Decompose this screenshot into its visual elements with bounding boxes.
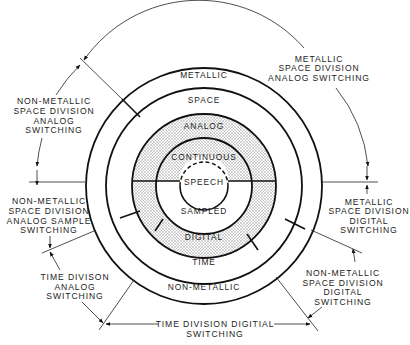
- callout-time-division-analog: TIME DIVISON ANALOG SWITCHING: [40, 272, 109, 301]
- arc-nonmetallic-space-analog-top: [56, 65, 80, 95]
- ring-label-sampled: SAMPLED: [181, 206, 227, 216]
- arc-metallic-space-analog: [84, 0, 304, 60]
- ring-label-metallic: METALLIC: [180, 70, 228, 80]
- divider-upper-left: [122, 99, 140, 117]
- arrow-time-analog: [82, 302, 103, 323]
- svg-text:SWITCHING: SWITCHING: [20, 225, 77, 235]
- ring-label-time: TIME: [192, 257, 216, 267]
- callout-nonmetallic-space-analog-sample: NON-METALLIC SPACE DIVISION ANALOG SAMPL…: [7, 196, 92, 235]
- svg-text:SWITCHING: SWITCHING: [340, 225, 397, 235]
- ring-label-non-metallic: NON-METALLIC: [168, 282, 241, 292]
- ring-label-continuous: CONTINUOUS: [171, 152, 236, 162]
- callout-nonmetallic-space-digital: NON-METALLIC SPACE DIVISION DIGITAL SWIT…: [302, 268, 383, 307]
- tick-left-time-analog: [50, 252, 60, 270]
- callout-metallic-space-digital: METALLIC SPACE DIVISION DIGITAL SWITCHIN…: [328, 197, 409, 235]
- svg-text:SPACE DIVISION: SPACE DIVISION: [278, 63, 359, 73]
- callout-metallic-space-analog: METALLIC SPACE DIVISION ANALOG SWITCHING: [268, 54, 370, 83]
- ring-label-analog: ANALOG: [184, 121, 224, 131]
- svg-text:TIME DIVISION DIGITIAL: TIME DIVISION DIGITIAL: [156, 319, 275, 329]
- svg-text:SPACE DIVISION: SPACE DIVISION: [328, 206, 409, 216]
- svg-text:NON-METALLIC: NON-METALLIC: [12, 196, 86, 206]
- tick-right-nonmetallic: [353, 249, 355, 262]
- svg-text:TIME DIVISON: TIME DIVISON: [40, 272, 109, 282]
- svg-text:SWITCHING: SWITCHING: [314, 297, 371, 307]
- arc-metallic-space-analog-right: [336, 88, 368, 166]
- switching-taxonomy-diagram: METALLIC SPACE ANALOG CONTINUOUS SPEECH …: [0, 0, 410, 345]
- ring-label-speech: SPEECH: [184, 177, 224, 187]
- ring-label-space: SPACE: [188, 95, 220, 105]
- svg-text:SPACE DIVISION: SPACE DIVISION: [8, 206, 89, 216]
- svg-text:SWITCHING: SWITCHING: [186, 329, 243, 339]
- callout-nonmetallic-space-analog: NON-METALLIC SPACE DIVISION ANALOG SWITC…: [13, 96, 94, 135]
- ring-label-digital: DIGITAL: [185, 232, 223, 242]
- svg-text:SPACE DIVISION: SPACE DIVISION: [13, 106, 94, 116]
- svg-text:SWITCHING: SWITCHING: [25, 125, 82, 135]
- leader-upper-left: [80, 58, 122, 99]
- arrow-nonmetallic-digital: [308, 307, 322, 318]
- leader-bottom-left: [99, 280, 134, 330]
- svg-text:NON-METALLIC: NON-METALLIC: [306, 268, 380, 278]
- svg-text:ANALOG SWITCHING: ANALOG SWITCHING: [268, 73, 370, 83]
- svg-text:NON-METALLIC: NON-METALLIC: [17, 96, 91, 106]
- svg-text:DIGITAL: DIGITAL: [323, 287, 362, 297]
- arc-nonmetallic-space-analog-bottom: [37, 138, 42, 166]
- callout-time-division-digital: TIME DIVISION DIGITIAL SWITCHING: [156, 319, 275, 339]
- svg-text:SWITCHING: SWITCHING: [46, 291, 103, 301]
- diagram-canvas: METALLIC SPACE ANALOG CONTINUOUS SPEECH …: [0, 0, 410, 345]
